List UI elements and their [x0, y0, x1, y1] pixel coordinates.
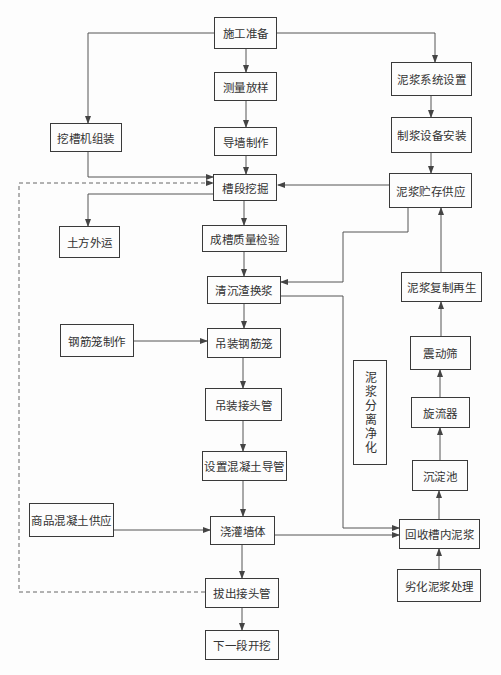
node-label: 槽段挖掘: [222, 180, 268, 196]
node-settle: 沉淀池: [412, 460, 468, 491]
node-label: 沉淀池: [423, 468, 458, 484]
node-label: 泥浆复制再生: [407, 279, 476, 295]
node-clean-slurry: 清沉渣换浆: [207, 276, 281, 304]
node-shaker: 震动筛: [410, 336, 471, 370]
node-bad-slurry: 劣化泥浆处理: [397, 569, 481, 602]
node-label: 浇灌墙体: [220, 523, 266, 539]
node-joint-lift: 吊装接头管: [205, 388, 282, 421]
node-label: 震动筛: [423, 345, 458, 361]
node-pour: 浇灌墙体: [210, 516, 275, 545]
node-machine: 挖槽机组装: [50, 123, 122, 152]
node-concrete-supply: 商品混凝土供应: [29, 503, 114, 537]
node-label: 设置混凝土导管: [204, 458, 285, 474]
node-label: 拔出接头管: [213, 585, 271, 601]
node-label: 成槽质量检验: [210, 231, 279, 247]
node-label: 泥浆分离净化: [362, 371, 379, 455]
edge-machine-excavate: [88, 152, 213, 177]
edge-prep-slurrysys: [277, 33, 435, 62]
node-label: 下一段开挖: [213, 637, 271, 653]
node-slurry-equipment: 制浆设备安装: [391, 117, 472, 153]
node-regen: 泥浆复制再生: [401, 272, 482, 302]
edge-store-clean: [281, 208, 408, 282]
node-label: 回收槽内泥浆: [405, 526, 474, 542]
node-label: 泥浆系统设置: [397, 71, 466, 87]
node-rebar-make: 钢筋笼制作: [60, 324, 134, 357]
node-label: 泥浆贮存供应: [396, 183, 465, 199]
node-label: 施工准备: [223, 25, 269, 41]
node-label: 吊装接头管: [215, 397, 273, 413]
node-label: 清沉渣换浆: [215, 282, 273, 298]
node-label: 钢筋笼制作: [68, 333, 126, 349]
node-separate-label: 泥浆分离净化: [353, 360, 387, 465]
node-label: 挖槽机组装: [57, 130, 115, 146]
node-label: 土方外运: [67, 234, 113, 250]
node-label: 测量放样: [223, 79, 269, 95]
node-label: 商品混凝土供应: [31, 512, 112, 528]
edge-excavate-soilout: [88, 194, 213, 226]
node-label: 制浆设备安装: [397, 127, 466, 143]
node-label: 吊装钢筋笼: [215, 335, 273, 351]
node-pull-joint: 拔出接头管: [205, 578, 279, 608]
node-rebar-lift: 吊装钢筋笼: [207, 328, 281, 358]
node-cyclone: 旋流器: [411, 397, 470, 428]
node-guidewall: 导墙制作: [214, 127, 277, 156]
node-soil-out: 土方外运: [59, 226, 120, 258]
node-slurry-system: 泥浆系统设置: [391, 62, 472, 96]
node-label: 导墙制作: [223, 134, 269, 150]
node-label: 旋流器: [423, 405, 458, 421]
node-excavate: 槽段挖掘: [213, 174, 277, 201]
node-tremie: 设置混凝土导管: [202, 451, 287, 481]
node-survey: 测量放样: [214, 72, 277, 101]
node-slurry-storage: 泥浆贮存供应: [389, 173, 472, 208]
node-quality-check: 成槽质量检验: [202, 225, 287, 252]
node-prep: 施工准备: [214, 17, 277, 49]
node-recover: 回收槽内泥浆: [399, 519, 480, 549]
flowchart-canvas: 施工准备 测量放样 导墙制作 挖槽机组装 槽段挖掘 泥浆系统设置 制浆设备安装 …: [0, 0, 501, 675]
edge-prep-machine: [88, 33, 214, 123]
node-label: 劣化泥浆处理: [405, 578, 474, 594]
node-next: 下一段开挖: [205, 630, 279, 660]
